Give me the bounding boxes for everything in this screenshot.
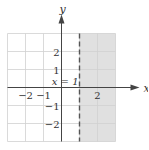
x-axis-label: x bbox=[144, 82, 149, 95]
y-axis-label: y bbox=[59, 3, 67, 16]
y-tick-label: −1 bbox=[45, 101, 60, 112]
boundary-equation-label: x = 1 bbox=[52, 76, 79, 87]
y-tick-label: 1 bbox=[53, 65, 59, 76]
x-tick-label: 2 bbox=[94, 90, 100, 101]
x-tick-label: −2 bbox=[18, 90, 33, 101]
inequality-graph: xy−2−1221−1−2x = 1 bbox=[0, 0, 148, 150]
y-tick-label: −2 bbox=[45, 119, 60, 130]
x-tick-label: −1 bbox=[36, 90, 51, 101]
y-tick-label: 2 bbox=[53, 47, 59, 58]
x-axis-arrow-icon bbox=[131, 85, 140, 91]
y-axis-arrow-icon bbox=[59, 15, 65, 24]
